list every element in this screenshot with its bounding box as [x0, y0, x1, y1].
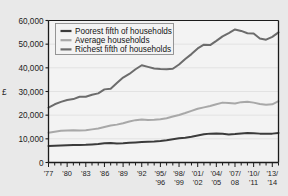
x-axis-tick-label: '86 — [100, 169, 110, 178]
y-axis-tick-label: 60,000 — [18, 17, 43, 26]
x-axis-tick-label: '04/ — [210, 169, 223, 178]
y-axis-tick-label: 20,000 — [18, 111, 43, 120]
x-axis-tick-label: '98/ — [173, 169, 186, 178]
income-distribution-chart: 010,00020,00030,00040,00050,00060,000£'7… — [0, 0, 288, 196]
x-axis-tick-label: '89 — [118, 169, 128, 178]
y-axis-tick-label: 50,000 — [18, 40, 43, 49]
x-axis-tick-label-second-line: '14 — [267, 178, 277, 187]
x-axis-tick-label: '01/ — [192, 169, 205, 178]
legend-label-0: Poorest fifth of households — [75, 27, 172, 36]
y-axis-tick-label: 40,000 — [18, 64, 43, 73]
x-axis-tick-label-second-line: '11 — [249, 178, 258, 187]
x-axis-tick-label: '10/ — [248, 169, 261, 178]
y-axis-tick-label: 10,000 — [18, 135, 43, 144]
x-axis-tick-label: '77 — [44, 169, 54, 178]
x-axis-tick-label: '80 — [62, 169, 72, 178]
x-axis-tick-label-second-line: '96 — [156, 178, 166, 187]
legend-label-1: Average households — [75, 36, 150, 45]
x-axis-tick-label-second-line: '99 — [174, 178, 184, 187]
x-axis-tick-label: '13/ — [266, 169, 279, 178]
x-axis-tick-label: '07/ — [229, 169, 242, 178]
y-axis-currency-label: £ — [2, 88, 7, 97]
x-axis-tick-label-second-line: '05 — [212, 178, 222, 187]
chart-canvas: 010,00020,00030,00040,00050,00060,000£'7… — [0, 0, 288, 196]
x-axis-tick-label-second-line: '02 — [193, 178, 203, 187]
y-axis-tick-label: 30,000 — [18, 88, 43, 97]
legend-label-2: Richest fifth of households — [75, 45, 171, 54]
y-axis-tick-label: 0 — [39, 159, 44, 168]
x-axis-tick-label: '95/ — [155, 169, 168, 178]
x-axis-tick-label: '92 — [137, 169, 147, 178]
x-axis-tick-label-second-line: 08 — [231, 178, 239, 187]
x-axis-tick-label: '83 — [81, 169, 91, 178]
